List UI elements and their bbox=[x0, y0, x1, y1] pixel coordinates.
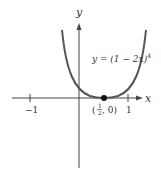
tick-label-1: 1 bbox=[126, 105, 132, 115]
function-curve bbox=[62, 30, 146, 98]
y-axis-label: y bbox=[75, 6, 83, 19]
curve-label-text: y = (1 − 2x) bbox=[91, 54, 148, 64]
curve-label-exponent: 4 bbox=[147, 52, 151, 59]
y-axis-arrow-icon bbox=[77, 23, 82, 30]
vertex-point bbox=[101, 95, 107, 101]
tick-label-neg1: −1 bbox=[25, 105, 38, 115]
point-label-close: , 0) bbox=[102, 105, 117, 115]
curve-label: y = (1 − 2x)4 bbox=[91, 52, 151, 64]
x-axis-arrow-icon bbox=[136, 96, 143, 101]
point-label-open: ( bbox=[92, 105, 96, 115]
function-plot: x y −1 1 y = (1 − 2x)4 ( 1 2 , 0) bbox=[0, 0, 161, 173]
x-axis-label: x bbox=[145, 92, 152, 105]
